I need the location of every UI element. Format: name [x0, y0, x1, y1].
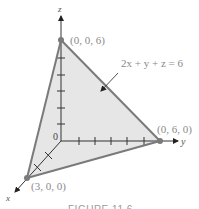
y-axis-label: y: [180, 136, 186, 147]
point-z-intercept: [58, 37, 64, 43]
x-intercept-label: (3, 0, 0): [31, 180, 66, 193]
equation-label: 2x + y + z = 6: [121, 57, 183, 69]
y-intercept-label: (0, 6, 0): [157, 123, 192, 136]
figure-caption: FIGURE 11.6: [68, 204, 133, 209]
point-y-intercept: [157, 138, 163, 144]
z-intercept-label: (0, 0, 6): [70, 34, 105, 47]
origin-label: 0: [53, 131, 58, 142]
plane-diagram: z y x 0 (0, 0, 6) (0, 6, 0) (3, 0, 0) 2x…: [0, 0, 199, 209]
x-axis-label: x: [5, 193, 10, 203]
z-axis-label: z: [57, 4, 62, 14]
point-x-intercept: [24, 175, 30, 181]
